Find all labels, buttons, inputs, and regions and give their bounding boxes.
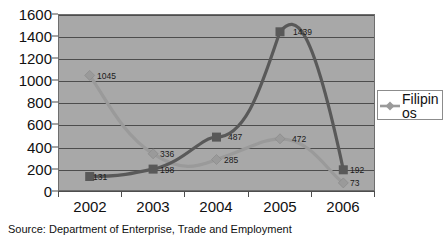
legend-entry-filipinos[interactable]: Filipinos — [380, 92, 443, 120]
x-tick-label: 2003 — [136, 199, 169, 214]
x-axis-line — [58, 191, 375, 192]
y-tick-label: 1400 — [19, 29, 52, 44]
y-tick-label: 1000 — [19, 73, 52, 88]
data-point-marker — [275, 134, 285, 144]
x-tick-mark — [311, 191, 312, 197]
series-line-secondary — [90, 24, 344, 176]
chart-screenshot: 1600 1400 1200 1000 800 600 400 200 0 20… — [0, 0, 446, 246]
diamond-line-marker-icon — [380, 100, 400, 112]
legend-label: Filipinos — [402, 92, 443, 120]
data-label: 192 — [350, 166, 364, 175]
series-layer — [58, 14, 375, 191]
x-tick-mark — [58, 191, 59, 197]
data-label: 198 — [160, 166, 174, 175]
data-label: 73 — [350, 179, 359, 188]
y-axis: 1600 1400 1200 1000 800 600 400 200 0 — [0, 14, 52, 191]
data-point-marker — [212, 155, 222, 165]
x-tick-mark — [121, 191, 122, 197]
y-tick-label: 400 — [27, 140, 52, 155]
chart-legend[interactable]: Filipinos — [377, 90, 443, 120]
x-tick-label: 2006 — [326, 199, 359, 214]
data-label: 472 — [292, 135, 306, 144]
data-point-marker — [149, 165, 158, 174]
data-point-marker — [276, 27, 285, 36]
data-label: 285 — [224, 156, 238, 165]
x-tick-mark — [248, 191, 249, 197]
series-line-filipinos — [90, 75, 344, 182]
data-label: 336 — [160, 150, 174, 159]
data-label: 131 — [93, 173, 107, 182]
y-tick-label: 0 — [44, 184, 52, 199]
x-tick-label: 2005 — [263, 199, 296, 214]
data-label: 1045 — [97, 72, 116, 81]
y-tick-label: 600 — [27, 117, 52, 132]
data-label: 1439 — [293, 28, 312, 37]
x-tick-label: 2002 — [73, 199, 106, 214]
source-caption: Source: Department of Enterprise, Trade … — [8, 224, 292, 235]
data-point-marker — [212, 133, 221, 142]
y-tick-label: 1600 — [19, 7, 52, 22]
line-chart: 1600 1400 1200 1000 800 600 400 200 0 20… — [0, 0, 446, 218]
y-tick-label: 200 — [27, 162, 52, 177]
x-tick-mark — [374, 191, 375, 197]
data-point-marker — [339, 165, 348, 174]
y-tick-label: 1200 — [19, 51, 52, 66]
x-tick-mark — [184, 191, 185, 197]
x-tick-label: 2004 — [199, 199, 232, 214]
data-label: 487 — [228, 133, 242, 142]
y-tick-label: 800 — [27, 95, 52, 110]
